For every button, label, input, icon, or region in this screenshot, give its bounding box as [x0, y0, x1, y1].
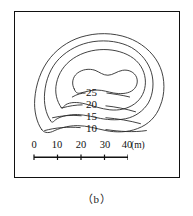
scale-tick-20: 20	[76, 140, 87, 151]
scale-tick-0: 0	[31, 140, 36, 151]
scale-unit-label: (m)	[131, 141, 145, 151]
contour-line-15	[44, 41, 153, 122]
scale-tick-30: 30	[100, 140, 111, 151]
contour-leader-25	[72, 93, 85, 97]
contour-label-20: 20	[86, 99, 97, 110]
contour-leader-15	[53, 115, 82, 117]
contour-label-25: 25	[86, 87, 97, 98]
scale-bar-tick-labels: 0 10 20 30 40 (m)	[21, 140, 146, 154]
contour-leader-15-right	[106, 118, 141, 124]
figure-contour-map: 25 20 15 10 0 10 20 30 40 (m) （b）	[0, 0, 193, 216]
map-frame: 25 20 15 10 0 10 20 30 40 (m)	[14, 11, 180, 178]
contour-leader-10	[45, 127, 81, 130]
scale-bar: 0 10 20 30 40 (m)	[21, 140, 146, 154]
contour-label-15: 15	[86, 111, 97, 122]
contour-line-25	[73, 69, 138, 93]
contour-line-20	[56, 50, 146, 111]
scale-tick-10: 10	[52, 140, 63, 151]
contour-leader-20-right	[106, 106, 136, 112]
scale-ruler-graphic	[21, 154, 128, 161]
contour-label-10: 10	[86, 123, 97, 134]
figure-caption: （b）	[0, 190, 193, 206]
